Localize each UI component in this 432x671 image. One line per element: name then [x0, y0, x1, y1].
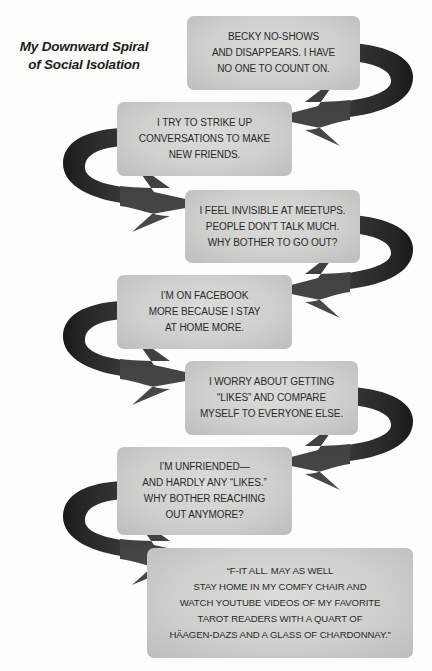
step-3-line: WHY BOTHER TO GO OUT? [208, 235, 338, 251]
step-box-6: I’M UNFRIENDED— AND HARDLY ANY “LIKES.” … [117, 447, 292, 535]
step-4-line: AT HOME MORE. [165, 320, 244, 336]
step-6-line: I’M UNFRIENDED— [159, 459, 249, 475]
step-6-line: OUT ANYMORE? [165, 507, 243, 523]
step-3-line: I FEEL INVISIBLE AT MEETUPS. [200, 203, 346, 219]
step-5-line: MYSELF TO EVERYONE ELSE. [200, 406, 343, 422]
step-box-1: BECKY NO-SHOWS AND DISAPPEARS. I HAVE NO… [187, 16, 360, 90]
step-box-7: “F-IT ALL. MAY AS WELL STAY HOME IN MY C… [147, 548, 413, 658]
step-box-2: I TRY TO STRIKE UP CONVERSATIONS TO MAKE… [117, 102, 292, 176]
step-5-line: I WORRY ABOUT GETTING [209, 374, 334, 390]
step-6-line: WHY BOTHER REACHING [144, 491, 265, 507]
step-box-5: I WORRY ABOUT GETTING “LIKES” AND COMPAR… [185, 361, 358, 435]
step-1-line: AND DISAPPEARS. I HAVE [212, 45, 335, 61]
step-5-line: “LIKES” AND COMPARE [217, 390, 326, 406]
step-7-line: TAROT READERS WITH A QUART OF [198, 611, 363, 627]
step-2-line: NEW FRIENDS. [169, 147, 241, 163]
step-7-line: “F-IT ALL. MAY AS WELL [227, 563, 334, 579]
step-4-line: I’M ON FACEBOOK [161, 288, 248, 304]
step-2-line: CONVERSATIONS TO MAKE [139, 131, 270, 147]
step-7-line: HÄAGEN-DAZS AND A GLASS OF CHARDONNAY.” [169, 627, 390, 643]
step-1-line: BECKY NO-SHOWS [228, 29, 319, 45]
step-box-4: I’M ON FACEBOOK MORE BECAUSE I STAY AT H… [117, 275, 292, 349]
step-7-line: WATCH YOUTUBE VIDEOS OF MY FAVORITE [180, 595, 381, 611]
step-6-line: AND HARDLY ANY “LIKES.” [142, 475, 266, 491]
step-4-line: MORE BECAUSE I STAY [149, 304, 261, 320]
step-3-line: PEOPLE DON’T TALK MUCH. [206, 219, 339, 235]
step-1-line: NO ONE TO COUNT ON. [217, 61, 330, 77]
step-7-line: STAY HOME IN MY COMFY CHAIR AND [194, 579, 367, 595]
step-box-3: I FEEL INVISIBLE AT MEETUPS. PEOPLE DON’… [185, 190, 360, 263]
step-2-line: I TRY TO STRIKE UP [157, 115, 252, 131]
